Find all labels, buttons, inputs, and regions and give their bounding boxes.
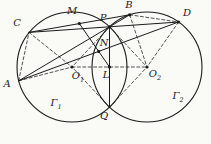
point-dot-P	[108, 25, 111, 28]
point-dot-B	[128, 13, 131, 16]
point-label-L: L	[102, 69, 110, 80]
geometry-figure: ABCDPQMNLO1O2Γ1Γ2	[0, 0, 211, 144]
segment-Q-O2	[110, 67, 148, 107]
segment-B-D	[130, 15, 179, 22]
point-label-O2: O2	[149, 68, 161, 82]
point-label-A: A	[2, 78, 10, 89]
point-label-M: M	[66, 5, 78, 16]
segment-C-D	[29, 22, 179, 32]
point-dot-D	[177, 20, 180, 23]
point-dot-N	[97, 50, 100, 53]
point-label-O1: O1	[72, 70, 84, 84]
circle-label-gamma2: Γ2	[171, 90, 183, 104]
geometry-diagram-canvas: ABCDPQMNLO1O2Γ1Γ2	[0, 0, 211, 144]
point-label-C: C	[13, 17, 21, 28]
segment-B-O2	[130, 15, 147, 67]
point-label-D: D	[182, 7, 191, 18]
segment-D-O2	[147, 22, 179, 67]
point-label-N: N	[99, 37, 110, 48]
point-dot-O1	[70, 65, 73, 68]
point-label-P: P	[99, 12, 107, 23]
point-label-Q: Q	[100, 110, 108, 121]
point-dot-M	[78, 22, 81, 25]
segment-A-O1	[19, 67, 72, 81]
point-label-B: B	[124, 0, 132, 10]
circle-label-gamma1: Γ1	[49, 97, 61, 111]
segment-P-O2	[110, 27, 148, 67]
